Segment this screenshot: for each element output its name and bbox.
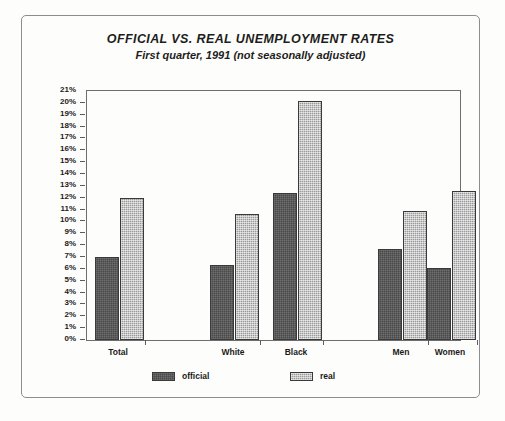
- bar-black-real: [298, 101, 322, 341]
- x-axis-tick-mark: [260, 340, 261, 345]
- y-axis-tick-mark: [80, 185, 85, 186]
- legend-item-official: official: [152, 371, 209, 381]
- x-axis-tick-mark: [428, 340, 429, 345]
- bar-men-real: [403, 211, 427, 340]
- y-axis-tick-mark: [80, 126, 85, 127]
- y-axis-tick-label: 21%: [60, 85, 76, 95]
- x-axis-label-women: Women: [435, 347, 466, 357]
- y-axis-tick-mark: [80, 114, 85, 115]
- y-axis-tick-mark: [80, 303, 85, 304]
- y-axis-tick-mark: [80, 232, 85, 233]
- bar-women-official: [427, 268, 451, 340]
- y-axis-tick-mark: [80, 161, 85, 162]
- page-border-frame: OFFICIAL VS. REAL UNEMPLOYMENT RATES Fir…: [21, 15, 480, 398]
- y-axis-tick-mark: [80, 315, 85, 316]
- bars-layer: [87, 91, 460, 340]
- x-axis-label-total: Total: [108, 347, 128, 357]
- bar-total-official: [95, 257, 119, 340]
- y-axis-tick-mark: [80, 137, 85, 138]
- x-axis-tick-mark: [145, 340, 146, 345]
- legend-label: real: [320, 371, 335, 381]
- y-axis-tick-label: 4%: [64, 287, 76, 297]
- y-axis-tick-label: 18%: [60, 121, 76, 131]
- y-axis: 21%20%19%18%17%16%15%14%13%12%11%10%9%8%…: [22, 90, 84, 340]
- y-axis-tick-label: 14%: [60, 168, 76, 178]
- x-axis-label-black: Black: [285, 347, 308, 357]
- y-axis-tick-label: 2%: [64, 310, 76, 320]
- y-axis-tick-label: 15%: [60, 156, 76, 166]
- bar-black-official: [273, 193, 297, 340]
- y-axis-tick-mark: [80, 173, 85, 174]
- y-axis-tick-label: 3%: [64, 298, 76, 308]
- y-axis-tick-mark: [80, 339, 85, 340]
- legend-label: official: [182, 371, 209, 381]
- y-axis-tick-mark: [80, 292, 85, 293]
- legend-swatch-official: [152, 372, 175, 381]
- bar-total-real: [120, 198, 144, 340]
- y-axis-tick-label: 16%: [60, 144, 76, 154]
- y-axis-tick-mark: [80, 102, 85, 103]
- y-axis-tick-mark: [80, 220, 85, 221]
- y-axis-tick-mark: [80, 197, 85, 198]
- y-axis-tick-mark: [80, 149, 85, 150]
- x-axis-label-white: White: [221, 347, 244, 357]
- y-axis-tick-mark: [80, 327, 85, 328]
- y-axis-tick-mark: [80, 209, 85, 210]
- y-axis-tick-label: 1%: [64, 322, 76, 332]
- y-axis-tick-label: 9%: [64, 227, 76, 237]
- y-axis-tick-label: 6%: [64, 263, 76, 273]
- bar-white-real: [235, 214, 259, 340]
- y-axis-tick-mark: [80, 244, 85, 245]
- legend-swatch-real: [290, 372, 313, 381]
- legend-item-real: real: [290, 371, 335, 381]
- y-axis-tick-label: 20%: [60, 97, 76, 107]
- chart-legend: officialreal: [22, 371, 481, 391]
- chart-page: { "chart_data": { "type": "bar", "title"…: [0, 0, 505, 421]
- x-axis-tick-mark: [323, 340, 324, 345]
- x-axis-label-men: Men: [393, 347, 410, 357]
- y-axis-tick-label: 17%: [60, 132, 76, 142]
- y-axis-tick-mark: [80, 256, 85, 257]
- y-axis-tick-label: 5%: [64, 275, 76, 285]
- bar-women-real: [452, 191, 476, 340]
- y-axis-tick-label: 10%: [60, 215, 76, 225]
- x-axis-tick-mark: [477, 340, 478, 345]
- bar-men-official: [378, 249, 402, 340]
- y-axis-tick-label: 0%: [64, 334, 76, 344]
- x-axis-category-labels: TotalWhiteBlackMenWomen: [86, 347, 461, 363]
- bar-white-official: [210, 265, 234, 340]
- y-axis-tick-label: 11%: [60, 204, 76, 214]
- y-axis-tick-label: 7%: [64, 251, 76, 261]
- y-axis-tick-label: 13%: [60, 180, 76, 190]
- plot-area: [86, 90, 461, 341]
- y-axis-tick-mark: [80, 280, 85, 281]
- plot-wrapper: 21%20%19%18%17%16%15%14%13%12%11%10%9%8%…: [22, 16, 481, 399]
- y-axis-tick-label: 8%: [64, 239, 76, 249]
- y-axis-tick-label: 12%: [60, 192, 76, 202]
- y-axis-tick-label: 19%: [60, 109, 76, 119]
- y-axis-tick-mark: [80, 268, 85, 269]
